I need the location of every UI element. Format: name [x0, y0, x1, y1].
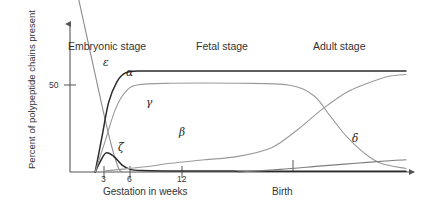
chart-plot-area: [0, 0, 432, 212]
stage-label-embryonic: Embryonic stage: [68, 40, 146, 52]
x-tick-label-6: 6: [127, 174, 132, 184]
curve-label-beta: β: [179, 126, 185, 138]
birth-label: Birth: [272, 186, 293, 197]
series-layer: [78, 0, 406, 172]
y-axis-title: Percent of polypeptide chains present: [26, 10, 37, 170]
curve-label-epsilon: ε: [103, 56, 109, 68]
series-curve-zeta: [95, 153, 406, 172]
stage-label-adult: Adult stage: [313, 40, 366, 52]
y-tick-label-50: 50: [49, 80, 58, 90]
x-tick-label-3: 3: [101, 174, 106, 184]
stage-label-fetal: Fetal stage: [196, 40, 248, 52]
curve-label-delta: δ: [352, 132, 358, 144]
series-curve-gamma: [95, 83, 406, 172]
chart-container: Percent of polypeptide chains present Ge…: [0, 0, 432, 212]
series-curve-delta: [238, 160, 406, 172]
curve-label-gamma: γ: [146, 96, 152, 108]
x-tick-label-12: 12: [177, 174, 186, 184]
series-curve-beta: [104, 75, 406, 172]
curve-label-zeta: ζ: [118, 141, 124, 153]
x-axis-title: Gestation in weeks: [103, 186, 188, 197]
curve-label-alpha: α: [126, 66, 133, 78]
